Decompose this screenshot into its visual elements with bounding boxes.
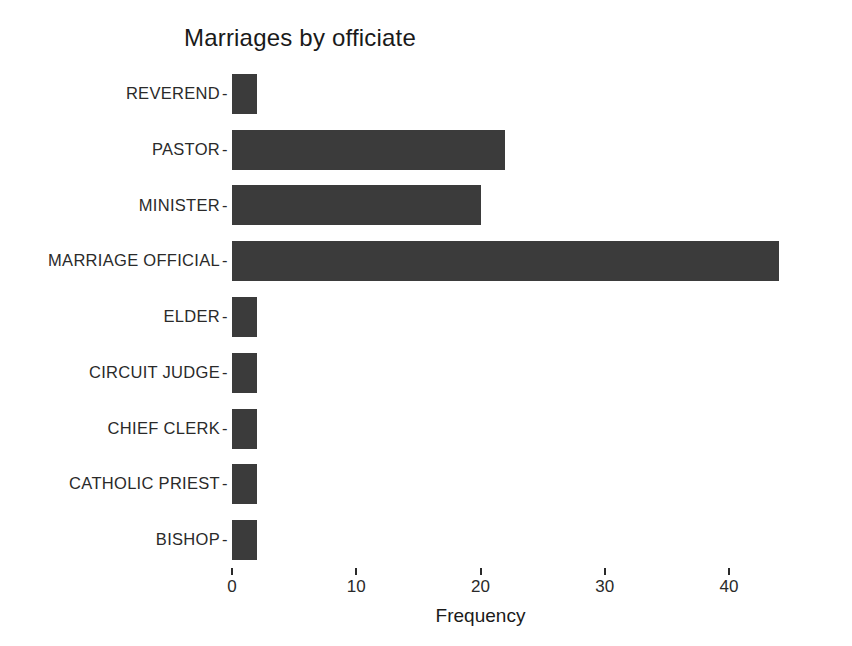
y-axis-tick-label: REVEREND bbox=[0, 66, 220, 122]
bar-row bbox=[232, 289, 729, 345]
bar bbox=[232, 464, 257, 504]
y-axis-tick-label: PASTOR bbox=[0, 122, 220, 178]
bar bbox=[232, 297, 257, 337]
chart-title: Marriages by officiate bbox=[0, 24, 600, 52]
bar bbox=[232, 409, 257, 449]
y-axis-tick-mark: - bbox=[222, 289, 230, 345]
bar-row bbox=[232, 512, 729, 568]
bar bbox=[232, 74, 257, 114]
bar-row bbox=[232, 401, 729, 457]
y-axis-tick-mark: - bbox=[222, 178, 230, 234]
y-axis-tick-label: ELDER bbox=[0, 289, 220, 345]
x-axis-tick-label: 10 bbox=[347, 577, 366, 597]
chart-figure: Marriages by officiate REVEREND-PASTOR-M… bbox=[0, 0, 852, 646]
y-axis-tick-label: CHIEF CLERK bbox=[0, 401, 220, 457]
y-axis-tick-label: BISHOP bbox=[0, 512, 220, 568]
x-axis-tick-mark bbox=[728, 568, 730, 575]
bar-row bbox=[232, 233, 729, 289]
bar bbox=[232, 241, 779, 281]
y-axis-tick-mark: - bbox=[222, 456, 230, 512]
plot-area bbox=[232, 66, 729, 568]
y-axis-tick-mark: - bbox=[222, 66, 230, 122]
y-axis-tick-label: MARRIAGE OFFICIAL bbox=[0, 233, 220, 289]
bar-row bbox=[232, 345, 729, 401]
x-axis-tick-mark bbox=[480, 568, 482, 575]
bar bbox=[232, 130, 505, 170]
y-axis-tick-label: CATHOLIC PRIEST bbox=[0, 456, 220, 512]
bar-row bbox=[232, 122, 729, 178]
x-axis-tick-label: 0 bbox=[227, 577, 236, 597]
bar bbox=[232, 185, 481, 225]
x-axis-tick-label: 40 bbox=[720, 577, 739, 597]
bar-row bbox=[232, 456, 729, 512]
y-axis-tick-label: CIRCUIT JUDGE bbox=[0, 345, 220, 401]
y-axis-tick-label: MINISTER bbox=[0, 178, 220, 234]
x-axis-tick-mark bbox=[355, 568, 357, 575]
bar bbox=[232, 520, 257, 560]
bar bbox=[232, 353, 257, 393]
x-axis: Frequency 010203040 bbox=[0, 568, 852, 646]
bar-row bbox=[232, 66, 729, 122]
y-axis-tick-mark: - bbox=[222, 512, 230, 568]
y-axis-tick-mark: - bbox=[222, 401, 230, 457]
y-axis-tick-mark: - bbox=[222, 122, 230, 178]
x-axis-tick-label: 30 bbox=[595, 577, 614, 597]
y-axis-tick-mark: - bbox=[222, 345, 230, 401]
y-axis-labels: REVEREND-PASTOR-MINISTER-MARRIAGE OFFICI… bbox=[0, 66, 232, 568]
x-axis-title: Frequency bbox=[232, 605, 729, 627]
x-axis-tick-label: 20 bbox=[471, 577, 490, 597]
x-axis-tick-mark bbox=[231, 568, 233, 575]
x-axis-tick-mark bbox=[604, 568, 606, 575]
y-axis-tick-mark: - bbox=[222, 233, 230, 289]
bar-row bbox=[232, 178, 729, 234]
